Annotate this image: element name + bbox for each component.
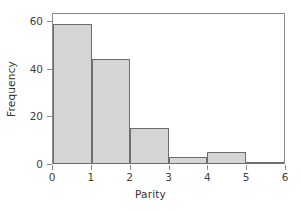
x-tick-mark-5 (246, 165, 247, 170)
bar-parity-3 (169, 157, 208, 164)
y-axis-title-text: Frequency (5, 60, 17, 116)
y-tick-label-20: 20 (30, 111, 43, 122)
x-tick-label-4: 4 (197, 172, 217, 183)
y-axis-title: Frequency (3, 0, 19, 177)
bar-parity-5 (246, 162, 285, 164)
x-tick-mark-4 (207, 165, 208, 170)
x-tick-label-1: 1 (81, 172, 101, 183)
x-tick-label-5: 5 (236, 172, 256, 183)
bar-parity-1 (92, 59, 131, 164)
x-tick-mark-6 (285, 165, 286, 170)
y-tick-mark-60 (47, 21, 52, 22)
x-tick-mark-1 (91, 165, 92, 170)
histogram-chart: 0 20 40 60 0 1 2 3 4 5 6 Parity Frequenc… (0, 0, 301, 211)
bars-layer (53, 14, 284, 164)
y-tick-mark-20 (47, 116, 52, 117)
x-tick-label-2: 2 (120, 172, 140, 183)
y-tick-label-0: 0 (36, 159, 43, 170)
y-tick-label-40: 40 (30, 64, 43, 75)
x-tick-label-6: 6 (275, 172, 295, 183)
y-tick-mark-40 (47, 69, 52, 70)
x-axis-title: Parity (0, 188, 301, 200)
x-tick-mark-2 (130, 165, 131, 170)
x-tick-label-0: 0 (42, 172, 62, 183)
y-tick-label-60: 60 (30, 16, 43, 27)
bar-parity-4 (207, 152, 246, 164)
bar-parity-0 (53, 24, 92, 164)
x-tick-label-3: 3 (159, 172, 179, 183)
bar-parity-2 (130, 128, 169, 164)
x-tick-mark-0 (52, 165, 53, 170)
x-tick-mark-3 (169, 165, 170, 170)
